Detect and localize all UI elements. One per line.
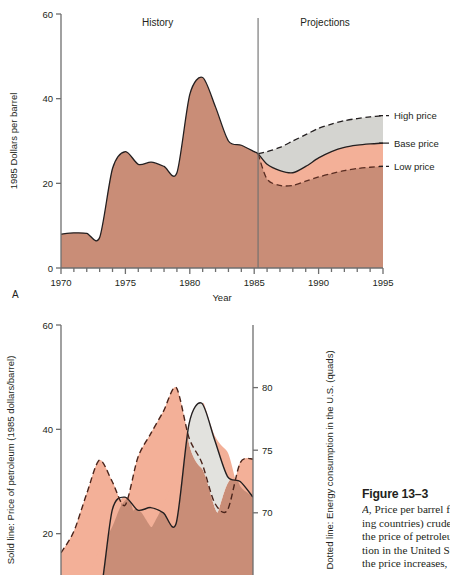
- y-tick-label: 60: [42, 9, 53, 20]
- caption-line: the price increases, consumption decreas…: [362, 557, 450, 571]
- caption-line: A, Price per barrel for OPEC (oil export…: [362, 503, 450, 517]
- panel-b-y-tick-label-right: 80: [262, 382, 273, 393]
- caption-body: A, Price per barrel for OPEC (oil export…: [362, 503, 450, 571]
- panel-b-plot: [61, 387, 253, 575]
- panel-a-x-axis-title: Year: [212, 292, 231, 303]
- x-tick-label: 1975: [115, 277, 136, 288]
- panel-b-y-tick-label-right: 70: [262, 507, 273, 518]
- annotation-history: History: [142, 17, 173, 28]
- y-tick-label: 20: [42, 178, 53, 189]
- x-tick-label: 1980: [179, 277, 200, 288]
- panel-a-chart: 0204060197019751980198519901995HistoryPr…: [0, 0, 440, 310]
- legend-low-price-label: Low price: [394, 161, 435, 172]
- panel-b-y-tick-label-left: 40: [42, 424, 53, 435]
- y-tick-label: 0: [48, 263, 53, 274]
- panel-b-y-axis-title-left: Solid line: Price of petroleum (1985 dol…: [5, 356, 16, 565]
- legend-base-price-label: Base price: [394, 138, 439, 149]
- panel-b-y-tick-label-right: 75: [262, 445, 273, 456]
- panel-b-y-tick-label-left: 60: [42, 320, 53, 331]
- annotation-projections: Projections: [300, 17, 349, 28]
- panel-a-y-axis-title: 1985 Dollars per barrel: [8, 93, 19, 190]
- x-tick-label: 1970: [50, 277, 71, 288]
- legend-high-price-label: High price: [394, 110, 437, 121]
- panel-b-y-axis-title-right: Dotted line: Energy consumption in the U…: [324, 350, 335, 569]
- panel-b-y-tick-label-left: 20: [42, 528, 53, 539]
- panel-a-group: 0204060197019751980198519901995HistoryPr…: [8, 9, 439, 304]
- caption-title: Figure 13–3: [362, 487, 450, 502]
- panel-b-group: 204060707580Solid line: Price of petrole…: [5, 320, 335, 575]
- caption-line: ing countries) crude oil. B, Comparison …: [362, 517, 450, 531]
- x-tick-label: 1990: [308, 277, 329, 288]
- y-tick-label: 40: [42, 93, 53, 104]
- figure-caption: Figure 13–3 A, Price per barrel for OPEC…: [362, 487, 450, 575]
- x-tick-label: 1995: [372, 277, 393, 288]
- x-tick-label: 1985: [244, 277, 265, 288]
- caption-line: tion in the United States. Note that whe…: [362, 544, 450, 558]
- caption-line: the price of petroleum and energy consum…: [362, 530, 450, 544]
- panel-a-letter: A: [12, 289, 19, 300]
